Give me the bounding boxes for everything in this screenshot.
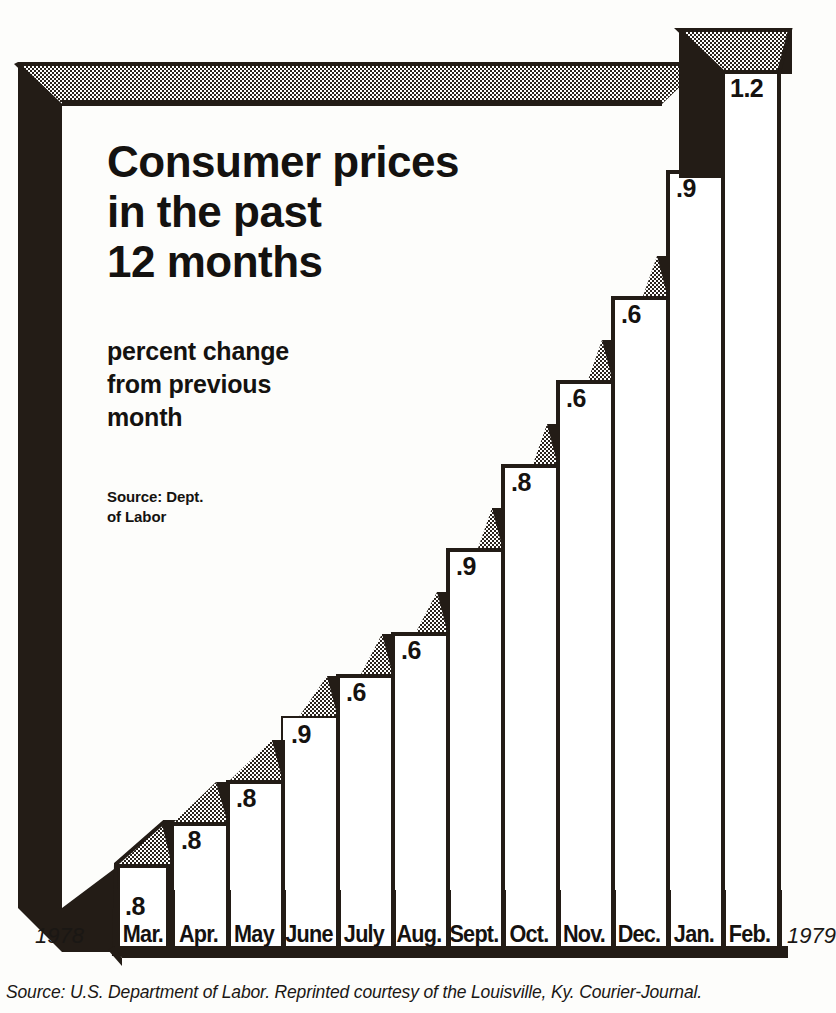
axis-label-oct: Oct. [503, 923, 556, 946]
bar-value-july: .6 [346, 680, 366, 705]
axis-year-end: 1979 [787, 925, 836, 947]
title-line-3: 12 months [107, 237, 507, 287]
bar-value-sept: .9 [456, 554, 476, 579]
source-line-2: of Labor [107, 507, 203, 527]
subtitle-line-2: from previous [107, 368, 437, 401]
source-line-1: Source: Dept. [107, 487, 203, 507]
axis-label-dec: Dec. [613, 923, 666, 946]
axis-label-apr: Apr. [172, 923, 226, 946]
figure-caption: Source: U.S. Department of Labor. Reprin… [6, 981, 702, 1003]
bar-value-apr: .8 [181, 828, 201, 853]
bar-value-june: .9 [291, 722, 311, 747]
axis-label-june: June [283, 923, 336, 946]
axis-year-start: 1978 [35, 925, 84, 947]
bar-value-nov: .6 [566, 386, 586, 411]
subtitle-line-1: percent change [107, 335, 437, 368]
inline-source-note: Source: Dept. of Labor [107, 487, 203, 527]
bar-value-mar: .8 [125, 894, 145, 919]
bar-value-feb: 1.2 [730, 76, 763, 101]
bar-value-may: .8 [236, 786, 256, 811]
axis-label-mar: Mar. [117, 923, 170, 946]
axis-label-feb: Feb. [723, 923, 777, 946]
page-title: Consumer prices in the past 12 months [107, 137, 507, 287]
axis-label-nov: Nov. [558, 923, 611, 946]
axis-label-jan: Jan. [668, 923, 721, 946]
bar-value-dec: .6 [621, 302, 641, 327]
chart-subtitle: percent change from previous month [107, 335, 437, 434]
axis-label-july: July [338, 923, 391, 946]
axis-label-sept: Sept. [448, 923, 501, 946]
subtitle-line-3: month [107, 401, 437, 434]
axis-label-may: May [228, 923, 281, 946]
bar-value-jan: .9 [676, 176, 696, 201]
bar-value-aug: .6 [401, 638, 421, 663]
bar-value-oct: .8 [511, 470, 531, 495]
title-line-1: Consumer prices [107, 137, 507, 187]
title-line-2: in the past [107, 187, 507, 237]
axis-label-aug: Aug. [393, 923, 446, 946]
